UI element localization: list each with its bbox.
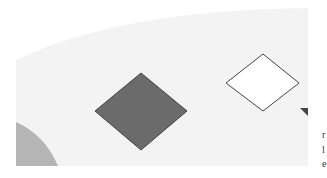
figure (0, 0, 327, 178)
cropped-text-line-1: r (322, 130, 325, 140)
cropped-text-line-2: l (322, 145, 325, 155)
cropped-text-line-3: e (322, 159, 326, 169)
